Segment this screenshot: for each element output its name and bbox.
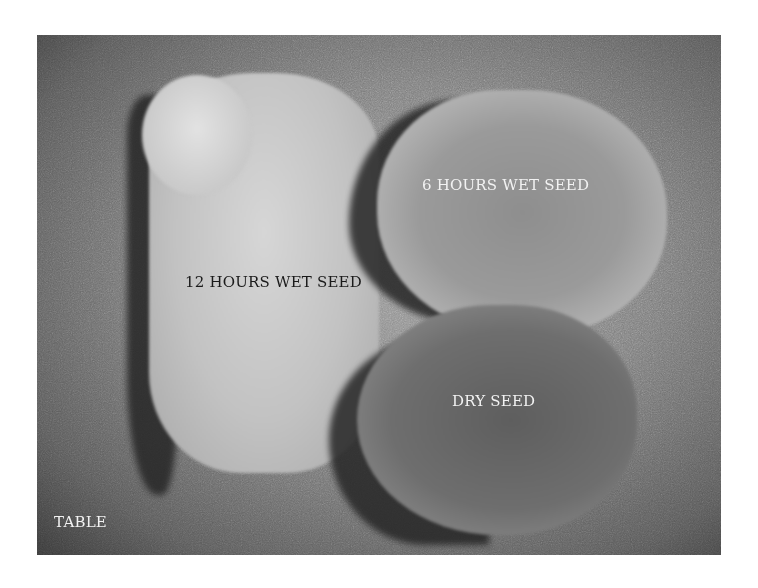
seed-12h-cap bbox=[142, 75, 252, 195]
label-12-hours-wet-seed: 12 HOURS WET SEED bbox=[185, 273, 362, 291]
seed-dry bbox=[357, 305, 637, 535]
label-6-hours-wet-seed: 6 HOURS WET SEED bbox=[422, 176, 589, 194]
label-dry-seed: DRY SEED bbox=[452, 392, 535, 410]
seed-6h-wet bbox=[377, 90, 667, 335]
seed-photo: 12 HOURS WET SEED 6 HOURS WET SEED DRY S… bbox=[37, 35, 721, 555]
label-table: TABLE bbox=[54, 513, 107, 531]
